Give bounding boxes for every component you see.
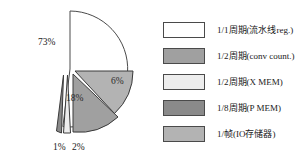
- pie-chart-legend: 1/1周期(流水线reg.) 1/2周期(conv count.) 1/2周期(…: [150, 0, 298, 158]
- legend-swatch-1-2-conv-count: [163, 48, 205, 64]
- pie-label-73: 73%: [38, 38, 55, 48]
- pie-label-1: 1%: [53, 143, 66, 153]
- pie-label-2: 2%: [72, 143, 85, 153]
- pie-label-18: 18%: [66, 94, 83, 104]
- pie-chart-plot: 73% 18% 6% 1% 2%: [0, 0, 150, 158]
- pie-chart-figure: 73% 18% 6% 1% 2% 1/1周期(流水线reg.) 1/2周期(co…: [0, 0, 298, 158]
- legend-label-1-frame-io: 1/帧(IO存储器): [217, 130, 276, 139]
- legend-label-1-2-conv-count: 1/2周期(conv count.): [217, 52, 294, 61]
- legend-swatch-1-8-p-mem: [163, 100, 205, 116]
- legend-swatch-1-frame-io: [163, 126, 205, 142]
- pie-slice-1-8-p-mem[interactable]: [57, 75, 64, 133]
- legend-label-1-8-p-mem: 1/8周期(P MEM): [217, 104, 281, 113]
- pie-chart-svg: [0, 0, 150, 158]
- legend-item-1-1-cycle[interactable]: 1/1周期(流水线reg.): [150, 21, 293, 39]
- legend-swatch-1-1-cycle: [163, 22, 205, 38]
- legend-item-1-2-x-mem[interactable]: 1/2周期(X MEM): [150, 73, 283, 91]
- legend-label-1-1-cycle: 1/1周期(流水线reg.): [217, 26, 293, 35]
- legend-item-1-frame-io[interactable]: 1/帧(IO存储器): [150, 125, 276, 143]
- legend-label-1-2-x-mem: 1/2周期(X MEM): [217, 78, 283, 87]
- legend-item-1-8-p-mem[interactable]: 1/8周期(P MEM): [150, 99, 281, 117]
- pie-label-6: 6%: [111, 77, 124, 87]
- legend-swatch-1-2-x-mem: [163, 74, 205, 90]
- legend-item-1-2-conv-count[interactable]: 1/2周期(conv count.): [150, 47, 294, 65]
